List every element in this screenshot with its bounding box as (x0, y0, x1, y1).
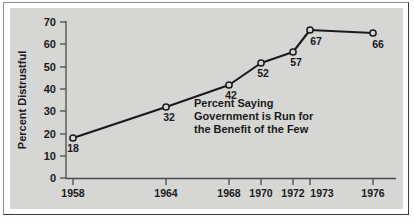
chart-figure: 70 60 50 40 30 20 10 0 Percent Distrustf… (0, 0, 414, 221)
plot-panel-background (10, 8, 403, 209)
